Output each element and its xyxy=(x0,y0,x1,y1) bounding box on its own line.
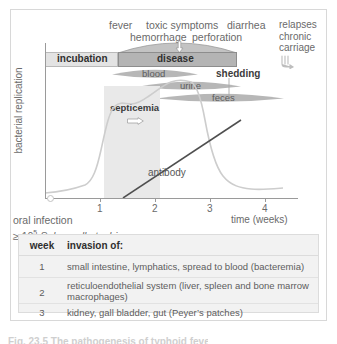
figure-caption: Fig. 23.5 The pathogenesis of typhoid fe… xyxy=(8,336,208,344)
carriage-arrow-icon xyxy=(280,55,296,69)
symptom-diarrhea: diarrhea xyxy=(227,20,266,31)
x-tick-label-2: 2 xyxy=(152,203,158,214)
invasion-table: week invasion of: 1 small intestine, lym… xyxy=(18,234,319,313)
table-cell-week: 3 xyxy=(19,307,65,318)
symptom-toxic: toxic symptoms xyxy=(146,20,218,31)
x-tick-1 xyxy=(100,198,101,202)
outcome-carriage: carriage xyxy=(279,42,317,54)
y-axis-label: bacterial replication xyxy=(13,56,24,166)
table-cell-invasion: kidney, gall bladder, gut (Peyer’s patch… xyxy=(67,307,314,318)
x-tick-label-3: 3 xyxy=(207,203,213,214)
y-axis-line xyxy=(45,43,46,198)
x-tick-label-1: 1 xyxy=(97,203,103,214)
x-tick-label-4: 4 xyxy=(262,203,268,214)
symptom-fever: fever xyxy=(109,20,132,31)
table-header-invasion: invasion of: xyxy=(67,240,314,251)
table-row: 2 reticuloendothelial system (liver, spl… xyxy=(19,280,318,304)
phase-label-disease: disease xyxy=(157,54,194,65)
x-axis-label: time (weeks) xyxy=(231,214,288,225)
figure-page: fever toxic symptoms diarrhea hemorrhage… xyxy=(0,0,337,344)
inoculum-line1: oral infection xyxy=(13,214,117,227)
x-tick-4 xyxy=(265,198,266,202)
outcome-relapses: relapses xyxy=(279,19,317,31)
table-header-row: week invasion of: xyxy=(19,240,318,256)
table-header-week: week xyxy=(19,240,65,251)
antibody-line xyxy=(123,120,241,198)
x-tick-2 xyxy=(155,198,156,202)
table-cell-invasion: small intestine, lymphatics, spread to b… xyxy=(67,261,314,272)
table-cell-week: 2 xyxy=(19,287,65,298)
table-row: 1 small intestine, lymphatics, spread to… xyxy=(19,260,318,278)
chart-curves xyxy=(45,68,293,198)
table-cell-week: 1 xyxy=(19,261,65,272)
table-cell-invasion: reticuloendothelial system (liver, splee… xyxy=(67,280,314,302)
x-tick-3 xyxy=(210,198,211,202)
origin-marker xyxy=(47,195,54,202)
x-axis-line xyxy=(45,198,298,199)
antibody-label: antibody xyxy=(148,168,186,179)
outcome-block: relapses chronic carriage xyxy=(279,19,317,54)
table-row: 3 kidney, gall bladder, gut (Peyer’s pat… xyxy=(19,306,318,322)
outcome-chronic: chronic xyxy=(279,31,317,43)
phase-label-incubation: incubation xyxy=(57,54,108,65)
